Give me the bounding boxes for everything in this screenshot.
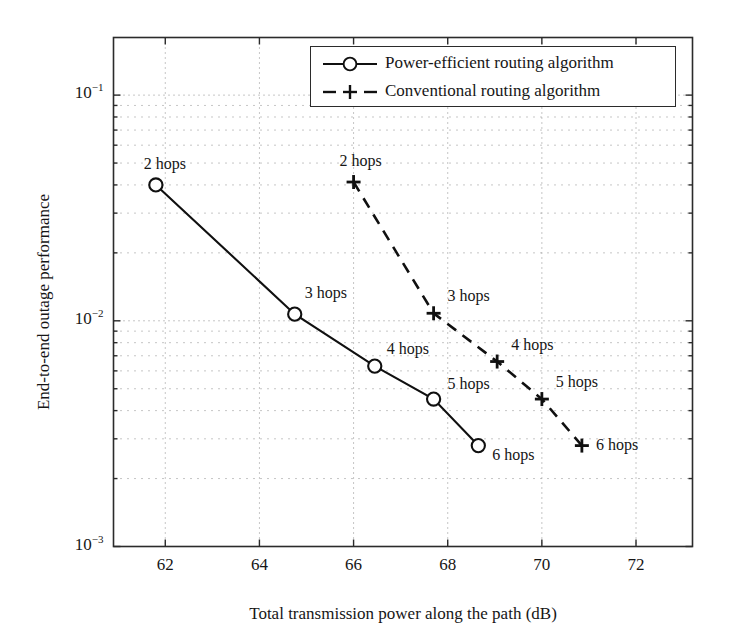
x-tick-label: 70 (520, 555, 564, 575)
grid-lines (114, 38, 693, 547)
x-tick-label: 68 (426, 555, 470, 575)
x-tick-label: 64 (237, 555, 281, 575)
point-annotation: 2 hops (144, 155, 186, 173)
y-tick-label: 10−2 (48, 309, 104, 329)
legend-label-conventional: Conventional routing algorithm (385, 81, 600, 101)
plus-marker-icon (321, 78, 379, 106)
legend-entry-conventional: Conventional routing algorithm (311, 78, 675, 106)
legend-label-power-efficient: Power-efficient routing algorithm (385, 53, 614, 73)
data-point (490, 355, 504, 369)
data-point (149, 178, 162, 191)
x-tick-label: 72 (614, 555, 658, 575)
y-tick-label: 10−1 (48, 83, 104, 103)
x-tick-label: 66 (332, 555, 376, 575)
plot-frame (114, 38, 693, 547)
point-annotation: 5 hops (556, 373, 598, 391)
y-axis-title: End-to-end outage performance (34, 172, 54, 432)
point-annotation: 6 hops (596, 436, 638, 454)
series-line-1 (354, 182, 582, 446)
data-point (535, 392, 549, 406)
circle-marker-icon (321, 50, 379, 78)
point-annotation: 4 hops (387, 340, 429, 358)
series-line-0 (156, 185, 478, 446)
chart-figure: End-to-end outage performance Total tran… (0, 0, 731, 642)
axis-ticks (114, 38, 693, 547)
x-axis-title: Total transmission power along the path … (113, 604, 693, 624)
data-point (347, 175, 361, 189)
point-annotation: 4 hops (511, 336, 553, 354)
point-annotation: 5 hops (448, 375, 490, 393)
point-annotation: 3 hops (448, 287, 490, 305)
x-tick-label: 62 (143, 555, 187, 575)
point-annotation: 2 hops (340, 152, 382, 170)
data-point (472, 439, 485, 452)
data-point (368, 359, 381, 372)
legend: Power-efficient routing algorithm Conven… (310, 46, 676, 107)
data-point (288, 308, 301, 321)
data-point (427, 392, 440, 405)
point-annotation: 6 hops (492, 446, 534, 464)
legend-entry-power-efficient: Power-efficient routing algorithm (311, 50, 675, 78)
data-series (149, 175, 589, 453)
y-tick-label: 10−3 (48, 535, 104, 555)
point-annotation: 3 hops (305, 284, 347, 302)
